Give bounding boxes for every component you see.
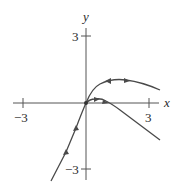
arrow-icon xyxy=(73,125,79,131)
phase-plot-svg: x y −3 3 3 −3 xyxy=(0,0,175,194)
y-tick-label-pos3: 3 xyxy=(72,29,79,44)
x-tick-label-pos3: 3 xyxy=(145,110,152,125)
y-tick-label-neg3: −3 xyxy=(65,162,79,177)
origin-point xyxy=(84,101,88,105)
x-tick-label-neg3: −3 xyxy=(14,110,28,125)
y-axis-label: y xyxy=(81,9,89,24)
x-axis-label: x xyxy=(163,95,170,110)
arrow-icon xyxy=(63,149,69,155)
arrow-icon xyxy=(94,97,100,102)
arrow-icon xyxy=(105,78,111,84)
phase-plot-figure: x y −3 3 3 −3 xyxy=(0,0,175,194)
